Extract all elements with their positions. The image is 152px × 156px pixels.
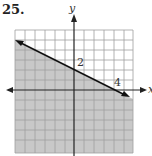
y-axis-arrow-up — [71, 14, 77, 22]
line-arrow-right — [121, 91, 130, 97]
y-intercept-label: 2 — [77, 56, 84, 69]
y-axis-label: y — [68, 2, 76, 15]
inequality-graph: y x 2 4 — [0, 0, 152, 156]
x-axis-arrow-right — [140, 87, 147, 93]
x-axis-label: x — [148, 83, 152, 96]
x-axis-arrow-left — [6, 87, 13, 93]
x-intercept-label: 4 — [114, 76, 121, 89]
